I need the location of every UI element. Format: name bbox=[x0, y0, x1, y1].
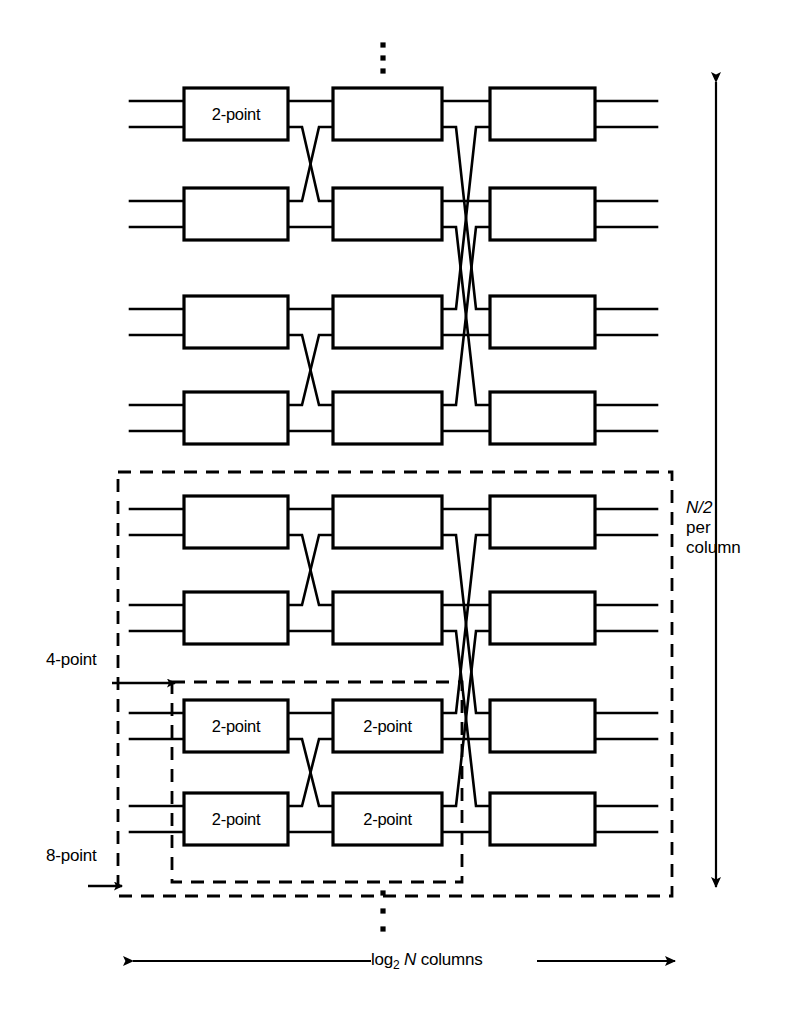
butterfly-box bbox=[333, 392, 442, 444]
butterfly-box bbox=[184, 392, 288, 444]
columns-count-label: log2 N columns bbox=[371, 950, 483, 972]
vertical-ellipsis-dot bbox=[380, 42, 385, 47]
butterfly-box bbox=[490, 700, 595, 752]
vertical-ellipsis-dot bbox=[380, 55, 385, 60]
butterfly-box bbox=[490, 392, 595, 444]
butterfly-box bbox=[490, 88, 595, 140]
butterfly-box bbox=[184, 188, 288, 240]
rows-per-column-value: N/2 bbox=[686, 498, 712, 517]
four-point-label: 4-point bbox=[46, 650, 97, 670]
vertical-ellipsis-dot bbox=[380, 926, 385, 931]
butterfly-box-label: 2-point bbox=[363, 717, 412, 735]
butterfly-box-label: 2-point bbox=[212, 717, 261, 735]
butterfly-box bbox=[333, 496, 442, 548]
columns-log-text: log bbox=[371, 950, 393, 969]
butterfly-box-label: 2-point bbox=[212, 105, 261, 123]
columns-n-symbol: N bbox=[404, 950, 416, 969]
vertical-ellipsis-dot bbox=[380, 890, 385, 895]
columns-suffix: columns bbox=[416, 950, 482, 969]
butterfly-box bbox=[333, 592, 442, 644]
butterfly-box bbox=[490, 793, 595, 845]
butterfly-box bbox=[333, 188, 442, 240]
columns-log-base: 2 bbox=[393, 958, 399, 972]
butterfly-box-label: 2-point bbox=[212, 810, 261, 828]
rows-per-column-line3: column bbox=[686, 538, 741, 557]
butterfly-box bbox=[184, 592, 288, 644]
vertical-ellipsis-dot bbox=[380, 68, 385, 73]
rows-per-column-line2: per bbox=[686, 518, 711, 537]
butterfly-box bbox=[184, 296, 288, 348]
vertical-ellipsis-dot bbox=[380, 908, 385, 913]
butterfly-box bbox=[184, 496, 288, 548]
butterfly-box bbox=[490, 188, 595, 240]
figure-canvas: 2-point2-point2-point2-point2-point 4-po… bbox=[0, 0, 793, 1028]
butterfly-network-diagram: 2-point2-point2-point2-point2-point bbox=[0, 0, 793, 1028]
butterfly-box bbox=[333, 296, 442, 348]
rows-per-column-label: N/2 per column bbox=[686, 498, 741, 558]
eight-point-label: 8-point bbox=[46, 846, 97, 866]
butterfly-box-label: 2-point bbox=[363, 810, 412, 828]
butterfly-box bbox=[490, 296, 595, 348]
butterfly-box bbox=[333, 88, 442, 140]
butterfly-box bbox=[490, 592, 595, 644]
butterfly-box bbox=[490, 496, 595, 548]
